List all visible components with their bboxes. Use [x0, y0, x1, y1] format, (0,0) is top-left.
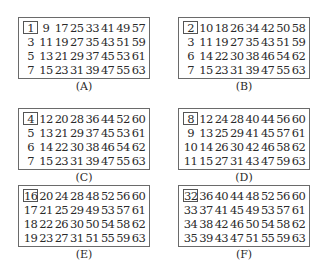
grid-cell: 49	[116, 21, 131, 35]
grid-row: 1822263050545862	[23, 217, 146, 231]
grid-cell: 48	[85, 189, 100, 203]
grid-cell: 28	[69, 112, 84, 126]
grid-row: 19172533414957	[23, 21, 146, 35]
grid-cell: 29	[69, 49, 84, 63]
key-number-boxed: 2	[183, 21, 198, 34]
grid-row: 1620242848525660	[23, 189, 146, 203]
grid-cell: 54	[276, 49, 291, 63]
grid-cell: 62	[291, 140, 306, 154]
grid-cell: 50	[245, 217, 260, 231]
card-label: (C)	[18, 172, 150, 184]
grid-cell: 42	[214, 217, 229, 231]
card-c: 4122028364452605132129374553616142230384…	[18, 108, 150, 184]
grid-row: 3438424650545862	[183, 217, 306, 231]
grid-cell: 31	[229, 63, 244, 77]
grid-cell: 57	[116, 203, 131, 217]
grid-cell: 40	[245, 112, 260, 126]
grid-cell: 63	[291, 231, 306, 245]
grid-row: 412202836445260	[23, 112, 146, 126]
grid-cell: 12	[198, 112, 213, 126]
grid-row: 3539434751555963	[183, 231, 306, 245]
grid-cell: 53	[260, 203, 275, 217]
grid-cell: 26	[229, 21, 244, 35]
grid-cell: 44	[260, 112, 275, 126]
grid-cell: 37	[85, 49, 100, 63]
grid-cell: 30	[229, 140, 244, 154]
grid-cell: 51	[276, 35, 291, 49]
grid-cell: 58	[291, 21, 306, 35]
grid-cell: 6	[183, 49, 198, 63]
grid-cell: 56	[116, 189, 131, 203]
grid-row: 311192735435159	[183, 35, 306, 49]
grid-cell: 46	[260, 49, 275, 63]
grid-cell: 39	[245, 63, 260, 77]
grid-cell: 47	[260, 154, 275, 168]
grid-cell: 5	[23, 126, 38, 140]
grid-row: 311192735435159	[23, 35, 146, 49]
grid-cell: 47	[260, 63, 275, 77]
grid-cell: 59	[131, 35, 146, 49]
grid-cell: 55	[276, 63, 291, 77]
grid-cell: 29	[69, 203, 84, 217]
grid-cell: 49	[85, 203, 100, 217]
grid-cell: 35	[183, 231, 198, 245]
grid-cell: 23	[214, 63, 229, 77]
grid-cell: 43	[245, 154, 260, 168]
grid-cell: 61	[131, 203, 146, 217]
grid-cell: 49	[245, 203, 260, 217]
grid-cell: 62	[291, 217, 306, 231]
card-e: 1620242848525660172125294953576118222630…	[18, 185, 150, 261]
grid-cell: 61	[131, 49, 146, 63]
grid-cell: 50	[276, 21, 291, 35]
grid-cell: 63	[131, 231, 146, 245]
grid-cell: 28	[69, 189, 84, 203]
grid-cell: 38	[198, 217, 213, 231]
grid-cell: 21	[38, 203, 53, 217]
card-label: (A)	[18, 81, 150, 93]
grid-cell: 62	[291, 49, 306, 63]
grid-cell: 46	[100, 140, 115, 154]
grid-cell: 55	[260, 231, 275, 245]
grid-cell: 11	[198, 35, 213, 49]
grid-cell: 52	[116, 112, 131, 126]
grid-cell: 25	[214, 126, 229, 140]
grid-cell: 22	[54, 140, 69, 154]
grid-row: 614223038465462	[183, 49, 306, 63]
grid-cell: 18	[23, 217, 38, 231]
card-label: (D)	[178, 172, 310, 184]
grid-cell: 19	[214, 35, 229, 49]
grid-cell: 19	[23, 231, 38, 245]
grid-cell: 45	[260, 126, 275, 140]
grid-cell: 22	[38, 217, 53, 231]
grid-cell: 3	[23, 35, 38, 49]
grid-cell: 57	[131, 21, 146, 35]
grid-cell: 7	[183, 63, 198, 77]
grid-cell: 10	[183, 140, 198, 154]
grid-row: 210182634425058	[183, 21, 306, 35]
grid-cell: 3	[183, 35, 198, 49]
grid-cell: 27	[69, 35, 84, 49]
grid-cell: 34	[245, 21, 260, 35]
grid-cell: 47	[100, 63, 115, 77]
grid-cell: 24	[54, 189, 69, 203]
grid-cell: 38	[245, 49, 260, 63]
grid-cell: 28	[229, 112, 244, 126]
grid-cell: 55	[116, 154, 131, 168]
grid-row: 1115273143475963	[183, 154, 306, 168]
card-label: (E)	[18, 249, 150, 261]
grid-cell: 30	[229, 49, 244, 63]
grid-row: 715233139475563	[23, 63, 146, 77]
grid-cell: 61	[291, 203, 306, 217]
grid-cell: 54	[100, 217, 115, 231]
grid-cell: 38	[85, 140, 100, 154]
grid-cell: 53	[116, 49, 131, 63]
grid-cell: 17	[23, 203, 38, 217]
number-grid: 4122028364452605132129374553616142230384…	[18, 108, 150, 170]
grid-cell: 54	[260, 217, 275, 231]
grid-cell: 33	[85, 21, 100, 35]
grid-cell: 35	[85, 35, 100, 49]
number-grid: 2101826344250583111927354351596142230384…	[178, 17, 310, 79]
number-grid: 1917253341495731119273543515951321293745…	[18, 17, 150, 79]
grid-row: 1923273151555963	[23, 231, 146, 245]
card-label: (B)	[178, 81, 310, 93]
